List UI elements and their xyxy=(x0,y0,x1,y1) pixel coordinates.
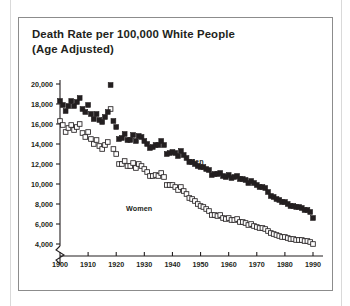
canvas-right-rule xyxy=(341,0,342,306)
svg-text:12,000: 12,000 xyxy=(31,160,53,169)
svg-text:1930: 1930 xyxy=(136,260,152,269)
svg-text:10,000: 10,000 xyxy=(31,180,53,189)
svg-text:1920: 1920 xyxy=(108,260,124,269)
chart-plot-svg: 4,0006,0008,00010,00012,00014,00016,0001… xyxy=(19,18,334,292)
svg-text:4,000: 4,000 xyxy=(35,240,53,249)
chart-frame: Death Rate per 100,000 White People (Age… xyxy=(18,17,333,291)
svg-text:1900: 1900 xyxy=(52,260,68,269)
svg-text:1940: 1940 xyxy=(164,260,180,269)
series-label-men: Men xyxy=(189,157,204,166)
svg-text:1990: 1990 xyxy=(305,260,321,269)
svg-text:1980: 1980 xyxy=(277,260,293,269)
plot-area: 4,0006,0008,00010,00012,00014,00016,0001… xyxy=(19,18,334,292)
svg-text:1950: 1950 xyxy=(193,260,209,269)
svg-text:18,000: 18,000 xyxy=(31,100,53,109)
svg-text:1910: 1910 xyxy=(80,260,96,269)
figure-root: Death Rate per 100,000 White People (Age… xyxy=(0,0,350,306)
series-label-women: Women xyxy=(126,204,152,213)
svg-text:8,000: 8,000 xyxy=(35,200,53,209)
svg-text:6,000: 6,000 xyxy=(35,220,53,229)
svg-text:20,000: 20,000 xyxy=(31,80,53,89)
svg-text:1960: 1960 xyxy=(221,260,237,269)
svg-text:14,000: 14,000 xyxy=(31,140,53,149)
svg-text:1970: 1970 xyxy=(249,260,265,269)
canvas-left-rule xyxy=(10,0,11,306)
svg-text:16,000: 16,000 xyxy=(31,120,53,129)
